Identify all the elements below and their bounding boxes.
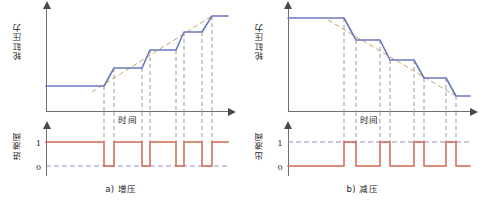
reference-line [92, 16, 212, 92]
valve-y-axis-label: 进液阀 [14, 131, 23, 160]
valve-plot-area [46, 128, 228, 176]
pressure-plot-area [288, 8, 470, 112]
panel-caption: b) 减压 [242, 182, 483, 194]
guide-lines [344, 18, 456, 112]
valve-tick-high: 1 [278, 139, 283, 148]
x-axis-arrow-icon [470, 108, 478, 116]
pressure-plot-area [46, 8, 228, 112]
valve-tick-low: 0 [278, 163, 283, 172]
valve-tick-high: 1 [36, 139, 41, 148]
valve-curve-svg [46, 128, 228, 176]
pressure-staircase-curve [288, 18, 470, 96]
pressure-y-axis-label: 轮缸压力 [14, 22, 23, 60]
pressure-curve-svg [46, 8, 228, 112]
valve-square-wave [288, 142, 470, 166]
valve-tick-low: 0 [36, 163, 41, 172]
valve-square-wave [46, 142, 228, 166]
valve-curve-svg [288, 128, 470, 176]
x-axis-arrow-icon [228, 108, 236, 116]
panel-caption: a) 增压 [0, 182, 242, 194]
pressure-staircase-curve [46, 16, 228, 86]
panel-pressurization: 轮缸压力 进液阀 时间 1 0 [0, 0, 242, 206]
pressure-curve-svg [288, 8, 470, 112]
abs-pressure-control-figure: 轮缸压力 进液阀 时间 1 0 [0, 0, 483, 206]
time-x-axis-label: 时间 [118, 113, 137, 125]
reference-line [328, 20, 456, 96]
panel-depressurization: 轮缸压力 出液阀 时间 1 0 [242, 0, 483, 206]
valve-plot-area [288, 128, 470, 176]
pressure-y-axis-label: 轮缸压力 [256, 22, 265, 60]
guide-lines [104, 16, 212, 112]
valve-y-axis-label: 出液阀 [256, 131, 265, 160]
time-x-axis-label: 时间 [360, 113, 379, 125]
